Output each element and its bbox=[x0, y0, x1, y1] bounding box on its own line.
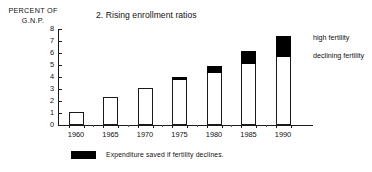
bar-1990-high-fertility bbox=[276, 36, 291, 57]
x-tick-1990-left bbox=[276, 125, 277, 128]
x-tick-1960-right bbox=[84, 125, 85, 128]
x-axis-label-1960: 1960 bbox=[62, 130, 90, 139]
x-tick-minor bbox=[197, 125, 198, 127]
legend-swatch-black bbox=[71, 151, 96, 159]
bar-1965-declining-fertility bbox=[103, 97, 118, 125]
y-tick-mark bbox=[59, 53, 62, 54]
y-tick-mark bbox=[59, 41, 62, 42]
x-axis-label-1975: 1975 bbox=[166, 130, 194, 139]
bottom-legend: Expenditure saved if fertility declines. bbox=[71, 150, 224, 159]
x-tick-1965-right bbox=[118, 125, 119, 128]
x-axis-label-1990: 1990 bbox=[269, 130, 297, 139]
x-tick-1980-left bbox=[207, 125, 208, 128]
plot-area: 012345678 1960196519701975198019851990 bbox=[58, 29, 310, 126]
y-tick-mark bbox=[59, 29, 62, 30]
y-tick-label: 6 bbox=[50, 48, 54, 57]
bar-1975-declining-fertility bbox=[172, 79, 187, 125]
y-tick-label: 5 bbox=[50, 60, 54, 69]
y-tick-label: 2 bbox=[50, 96, 54, 105]
x-axis-label-1965: 1965 bbox=[97, 130, 125, 139]
y-axis-caption-line1: PERCENT OF bbox=[8, 6, 57, 15]
x-tick-minor bbox=[128, 125, 129, 127]
bar-1985-high-fertility bbox=[241, 51, 256, 64]
y-tick-label: 4 bbox=[50, 72, 54, 81]
y-tick-mark bbox=[59, 65, 62, 66]
x-axis-label-1980: 1980 bbox=[200, 130, 228, 139]
x-tick-1975-right bbox=[187, 125, 188, 128]
x-tick-minor bbox=[266, 125, 267, 127]
x-tick-1970-right bbox=[153, 125, 154, 128]
x-tick-1960-left bbox=[69, 125, 70, 128]
x-axis-label-1970: 1970 bbox=[131, 130, 159, 139]
bar-1980-high-fertility bbox=[207, 66, 222, 72]
legend-label-declining-fertility: declining fertility bbox=[313, 51, 364, 60]
bar-1990-declining-fertility bbox=[276, 56, 291, 125]
y-tick-mark bbox=[59, 113, 62, 114]
y-axis-caption-line2: G.N.P. bbox=[2, 16, 64, 26]
y-tick-mark bbox=[59, 101, 62, 102]
x-tick-1970-left bbox=[138, 125, 139, 128]
x-tick-1965-left bbox=[103, 125, 104, 128]
y-tick-label: 7 bbox=[50, 36, 54, 45]
y-tick-label: 3 bbox=[50, 84, 54, 93]
x-tick-1975-left bbox=[172, 125, 173, 128]
x-tick-1980-right bbox=[222, 125, 223, 128]
y-axis-caption: PERCENT OF G.N.P. bbox=[2, 6, 64, 26]
x-tick-minor bbox=[93, 125, 94, 127]
x-tick-minor bbox=[162, 125, 163, 127]
y-tick-label: 1 bbox=[50, 108, 54, 117]
bar-1960-declining-fertility bbox=[69, 112, 84, 125]
y-tick-label: 8 bbox=[50, 24, 54, 33]
x-tick-1985-right bbox=[256, 125, 257, 128]
x-tick-minor bbox=[231, 125, 232, 127]
bar-1970-declining-fertility bbox=[138, 88, 153, 125]
legend-label-high-fertility: high fertility bbox=[313, 33, 349, 42]
bar-1985-declining-fertility bbox=[241, 63, 256, 125]
x-tick-1985-left bbox=[241, 125, 242, 128]
bar-1980-declining-fertility bbox=[207, 72, 222, 125]
legend-footnote-label: Expenditure saved if fertility declines. bbox=[106, 150, 224, 159]
x-tick-1990-right bbox=[291, 125, 292, 128]
y-tick-mark bbox=[59, 77, 62, 78]
x-axis-label-1985: 1985 bbox=[235, 130, 263, 139]
y-tick-mark bbox=[59, 89, 62, 90]
chart-title: 2. Rising enrollment ratios bbox=[96, 10, 197, 20]
y-tick-mark bbox=[59, 125, 62, 126]
y-tick-label: 0 bbox=[50, 120, 54, 129]
bar-1975-high-fertility bbox=[172, 77, 187, 80]
